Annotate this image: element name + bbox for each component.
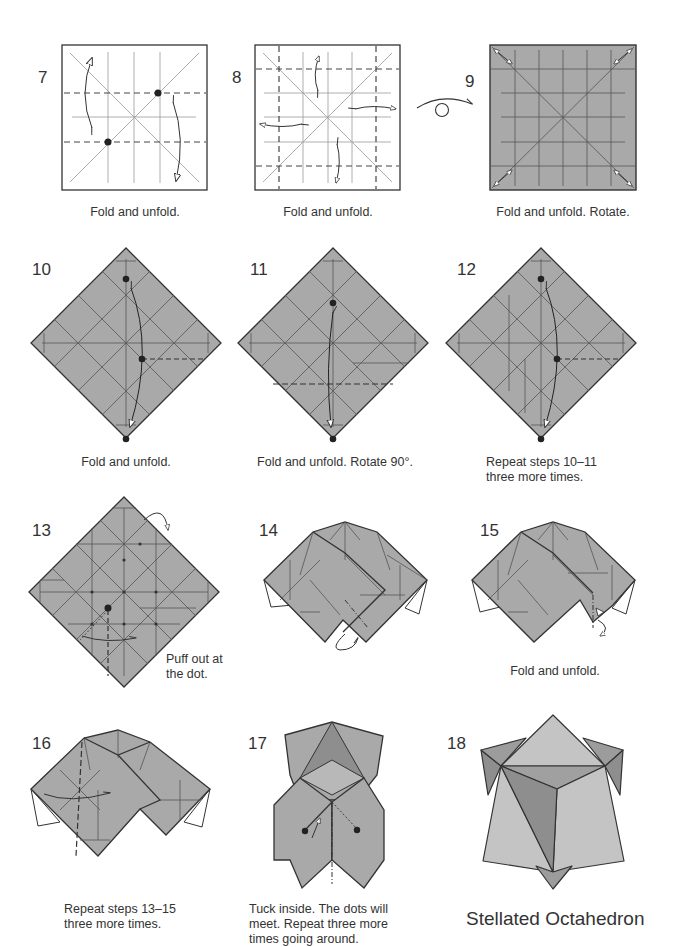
step-9-diagram	[490, 45, 636, 190]
step-11-diagram	[238, 248, 428, 442]
step-12-diagram	[446, 248, 636, 442]
step-16-diagram	[31, 730, 210, 856]
turn-over-icon	[417, 99, 472, 117]
step-13-diagram	[29, 497, 219, 687]
step-15-diagram	[472, 522, 635, 642]
step-17-diagram	[274, 722, 384, 888]
stellated-octahedron	[481, 715, 624, 889]
step-7-diagram	[62, 45, 207, 190]
step-8-diagram	[255, 45, 400, 190]
step-14-diagram	[264, 522, 427, 650]
step-10-diagram	[31, 248, 221, 442]
